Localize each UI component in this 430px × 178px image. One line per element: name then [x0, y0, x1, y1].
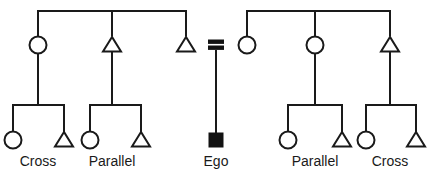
ego-label: Ego [204, 153, 229, 169]
cousins-right-inner-0-female-circle-symbol [280, 132, 297, 149]
symbol-layer [5, 37, 426, 149]
cousins-right-outer-1-male-triangle-symbol [407, 132, 425, 147]
kinship-diagram-canvas: CrossParallelParallelCrossEgo [0, 0, 430, 178]
grandparent-sibling-set-right-1-female-circle-symbol [307, 37, 324, 54]
cousins-right-inner-1-male-triangle-symbol [333, 132, 351, 147]
grandparent-sibling-set-right-0-female-circle-symbol [239, 37, 256, 54]
connector-layer [12, 11, 417, 134]
marriage-equals-bottom-bar [209, 47, 223, 49]
cousins-left-inner-0-female-circle-symbol [82, 132, 99, 149]
cousins-right-outer-0-female-circle-symbol [358, 132, 375, 149]
cousins-left-outer-0-female-circle-symbol [5, 132, 22, 149]
grandparent-sibling-set-left-0-female-circle-symbol [30, 37, 47, 54]
marriage-equals-top-bar [209, 41, 223, 43]
group-label-cousins-right-outer: Cross [372, 153, 409, 169]
label-layer: CrossParallelParallelCrossEgo [20, 153, 409, 169]
grandparent-sibling-set-left-1-male-triangle-symbol [103, 37, 121, 52]
cousins-left-outer-1-male-triangle-symbol [55, 132, 73, 147]
cousins-left-inner-1-male-triangle-symbol [132, 132, 150, 147]
ego-filled-square-symbol [210, 134, 223, 147]
grandparent-sibling-set-right-2-male-triangle-symbol [381, 37, 399, 52]
grandparent-sibling-set-left-2-male-triangle-symbol [177, 37, 195, 52]
group-label-cousins-left-outer: Cross [20, 153, 57, 169]
group-label-cousins-right-inner: Parallel [292, 153, 339, 169]
group-label-cousins-left-inner: Parallel [89, 153, 136, 169]
kinship-diagram-root: CrossParallelParallelCrossEgo [0, 0, 430, 178]
